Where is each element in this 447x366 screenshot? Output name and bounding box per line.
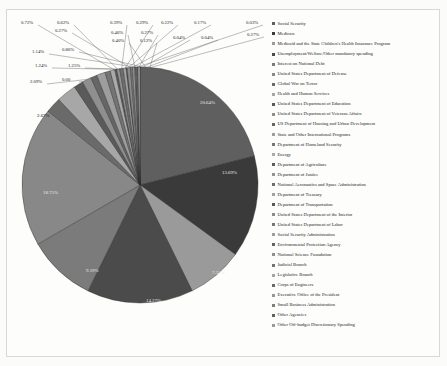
percent-callout: 0.39% bbox=[110, 20, 122, 25]
percent-slice-label: 18.75% bbox=[43, 190, 58, 195]
legend-swatch-icon bbox=[272, 53, 275, 56]
chart-page: 0.72%0.62%0.39%0.29%0.22%0.17%0.03%0.27%… bbox=[0, 0, 447, 366]
percent-callout: 1.24% bbox=[35, 63, 47, 68]
percent-callout: 0.22% bbox=[161, 20, 173, 25]
legend-swatch-icon bbox=[272, 183, 275, 186]
legend-item: Department of Justice bbox=[272, 170, 442, 180]
legend-swatch-icon bbox=[272, 304, 275, 307]
legend-swatch-icon bbox=[272, 32, 275, 35]
percent-callout: 0.86% bbox=[62, 47, 74, 52]
percent-callout: 0.17% bbox=[194, 20, 206, 25]
percent-callout: 0.46% bbox=[111, 30, 123, 35]
legend-swatch-icon bbox=[272, 274, 275, 277]
percent-slice-label: 7.55% bbox=[212, 270, 225, 275]
legend-swatch-icon bbox=[272, 163, 275, 166]
legend-swatch-icon bbox=[272, 213, 275, 216]
legend-swatch-icon bbox=[272, 264, 275, 267]
legend-item: Judicial Branch bbox=[272, 260, 442, 270]
legend-swatch-icon bbox=[272, 324, 275, 327]
percent-callout: 0.27% bbox=[55, 28, 67, 33]
legend-item: State and Other International Programs bbox=[272, 130, 442, 140]
legend-item: Energy bbox=[272, 150, 442, 160]
percent-callout: 0.00 bbox=[62, 77, 70, 82]
legend-swatch-icon bbox=[272, 113, 275, 116]
percent-callout: 0.29% bbox=[136, 20, 148, 25]
legend-item: National Science Foundation bbox=[272, 250, 442, 260]
leader-line bbox=[149, 43, 157, 69]
legend-swatch-icon bbox=[272, 233, 275, 236]
percent-callout: 1.25% bbox=[68, 63, 80, 68]
legend-item: Medicaid and the State Children's Health… bbox=[272, 39, 442, 49]
leader-line bbox=[145, 37, 264, 69]
legend-swatch-icon bbox=[272, 22, 275, 25]
legend-label: Department of Transportation bbox=[278, 200, 333, 211]
percent-callout: 0.03% bbox=[246, 20, 258, 25]
legend-swatch-icon bbox=[272, 193, 275, 196]
legend-swatch-icon bbox=[272, 153, 275, 156]
percent-callout: 0.04% bbox=[173, 35, 185, 40]
legend-swatch-icon bbox=[272, 103, 275, 106]
legend-item: Department of Agriculture bbox=[272, 160, 442, 170]
percent-callout: 0.62% bbox=[57, 20, 69, 25]
percent-callout: 0.27% bbox=[247, 32, 259, 37]
legend-swatch-icon bbox=[272, 63, 275, 66]
legend-item: Department of Transportation bbox=[272, 200, 442, 210]
legend-swatch-icon bbox=[272, 123, 275, 126]
leader-line bbox=[129, 43, 147, 69]
legend-item: United States Department of Labor bbox=[272, 220, 442, 230]
percent-callout: 2.09% bbox=[30, 79, 42, 84]
percent-slice-label: 13.69% bbox=[222, 170, 237, 175]
legend-item: Unemployment/Welfare/Other mandatory spe… bbox=[272, 49, 442, 59]
legend-label: United States Department of Labor bbox=[278, 220, 343, 231]
percent-slice-label: 14.27% bbox=[146, 298, 161, 303]
percent-callout: 0.27% bbox=[141, 30, 153, 35]
legend-swatch-icon bbox=[272, 73, 275, 76]
legend-item: Other Off-budget Discretionary Spending bbox=[272, 320, 442, 330]
chart-legend: Social SecurityMedicareMedicaid and the … bbox=[272, 19, 442, 330]
legend-label: Department of Agriculture bbox=[278, 159, 327, 170]
legend-swatch-icon bbox=[272, 253, 275, 256]
legend-swatch-icon bbox=[272, 203, 275, 206]
legend-swatch-icon bbox=[272, 93, 275, 96]
legend-item: National Aeronautics and Space Administr… bbox=[272, 180, 442, 190]
legend-swatch-icon bbox=[272, 133, 275, 136]
legend-swatch-icon bbox=[272, 173, 275, 176]
percent-callout: 0.40% bbox=[112, 38, 124, 43]
legend-swatch-icon bbox=[272, 314, 275, 317]
legend-swatch-icon bbox=[272, 83, 275, 86]
percent-slice-label: 20.64% bbox=[200, 100, 215, 105]
legend-swatch-icon bbox=[272, 284, 275, 287]
percent-slice-label: 2.67% bbox=[37, 113, 50, 118]
pie-slices bbox=[22, 67, 258, 303]
legend-swatch-icon bbox=[272, 243, 275, 246]
legend-label: Department of Homeland Security bbox=[278, 139, 342, 150]
legend-item: Social Security bbox=[272, 19, 442, 29]
percent-callout: 0.04% bbox=[201, 35, 213, 40]
legend-item: Department of Treasury bbox=[272, 190, 442, 200]
legend-item: Social Security Administration bbox=[272, 230, 442, 240]
legend-swatch-icon bbox=[272, 294, 275, 297]
legend-label: US Department of Housing and Urban Devel… bbox=[278, 119, 376, 130]
legend-label: Energy bbox=[278, 149, 291, 160]
legend-label: National Aeronautics and Space Administr… bbox=[278, 179, 366, 190]
legend-item: Environmental Protection Agency bbox=[272, 240, 442, 250]
percent-callout: 0.72% bbox=[21, 20, 33, 25]
legend-swatch-icon bbox=[272, 143, 275, 146]
legend-item: United States Department of the Interior bbox=[272, 210, 442, 220]
percent-slice-label: 9.19% bbox=[86, 268, 99, 273]
legend-label: United States Department of the Interior bbox=[278, 210, 353, 221]
percent-callout: 1.14% bbox=[32, 49, 44, 54]
legend-item: Department of Homeland Security bbox=[272, 140, 442, 150]
legend-item: US Department of Housing and Urban Devel… bbox=[272, 119, 442, 129]
legend-label: State and Other International Programs bbox=[278, 129, 351, 140]
legend-item: Medicare bbox=[272, 29, 442, 39]
percent-callout: 0.12% bbox=[140, 38, 152, 43]
legend-swatch-icon bbox=[272, 223, 275, 226]
legend-label: Department of Treasury bbox=[278, 189, 322, 200]
leader-line bbox=[140, 40, 190, 69]
legend-label: Other Off-budget Discretionary Spending bbox=[278, 320, 355, 331]
legend-label: Department of Justice bbox=[278, 169, 319, 180]
legend-swatch-icon bbox=[272, 42, 275, 45]
